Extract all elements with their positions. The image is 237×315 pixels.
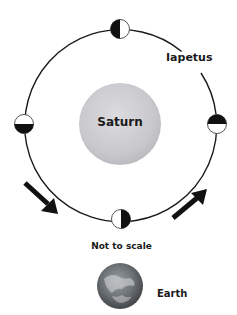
earth-label: Earth <box>157 288 187 299</box>
arrow-up-right-icon <box>173 189 207 218</box>
moon-phase-top-icon <box>111 20 130 39</box>
not-to-scale-note: Not to scale <box>0 241 237 251</box>
earth-icon <box>97 263 143 309</box>
arrow-down-right-icon <box>25 183 58 214</box>
moon-phase-bottom-icon <box>112 210 131 229</box>
orbit-diagram <box>0 0 237 315</box>
saturn-label: Saturn <box>0 115 237 129</box>
iapetus-label: Iapetus <box>166 51 213 64</box>
